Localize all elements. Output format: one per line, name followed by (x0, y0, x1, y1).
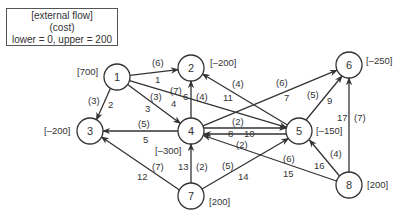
svg-text:(3): (3) (150, 91, 162, 102)
svg-text:1: 1 (155, 74, 160, 85)
svg-text:11: 11 (223, 92, 233, 103)
node-5: 5 [–150] (286, 118, 342, 144)
svg-text:2: 2 (108, 99, 113, 110)
svg-text:[200]: [200] (209, 196, 230, 207)
svg-text:(3): (3) (88, 95, 100, 106)
svg-text:16: 16 (314, 160, 325, 171)
edge-1-1-to-2: (6) 1 (130, 57, 178, 85)
svg-text:[–150]: [–150] (316, 125, 342, 136)
svg-text:(2): (2) (232, 116, 244, 127)
svg-text:6: 6 (183, 91, 188, 102)
svg-text:1: 1 (114, 71, 120, 83)
svg-text:(6): (6) (152, 57, 164, 68)
node-3: 3 [–200] (44, 118, 103, 144)
svg-text:(4): (4) (232, 78, 244, 89)
edge-13-7-to-4: 13 (2) (178, 144, 208, 183)
svg-text:14: 14 (238, 171, 249, 182)
edge-16-8-to-5: (4) 16 (310, 140, 342, 176)
node-8: 8 [200] (336, 172, 388, 198)
edge-11-5-to-2: (4) 11 (203, 74, 288, 125)
svg-text:(7): (7) (354, 112, 366, 123)
svg-text:13: 13 (178, 161, 189, 172)
node-1: 1 [700] (77, 64, 130, 90)
svg-text:7: 7 (188, 190, 194, 202)
svg-text:5: 5 (296, 125, 302, 137)
svg-text:[–200]: [–200] (210, 57, 236, 68)
node-7: 7 [200] (178, 183, 230, 209)
svg-text:(5): (5) (307, 89, 319, 100)
svg-text:(5): (5) (138, 118, 150, 129)
svg-text:4: 4 (188, 125, 194, 137)
svg-text:8: 8 (346, 179, 352, 191)
svg-text:7: 7 (284, 92, 289, 103)
node-4: 4 [–300] (155, 118, 204, 156)
svg-text:9: 9 (327, 95, 332, 106)
svg-text:(4): (4) (196, 91, 208, 102)
svg-text:[700]: [700] (77, 66, 98, 77)
svg-text:(2): (2) (196, 161, 208, 172)
svg-text:4: 4 (171, 98, 176, 109)
svg-text:2: 2 (188, 62, 194, 74)
svg-text:(7): (7) (152, 161, 164, 172)
edge-6-4-to-2: 6 (4) (183, 81, 208, 118)
svg-text:(6): (6) (283, 153, 295, 164)
svg-text:12: 12 (137, 171, 148, 182)
svg-text:6: 6 (346, 59, 352, 71)
edge-2-1-to-3: (3) 2 (88, 88, 113, 119)
node-6: 6 [–250] (336, 52, 392, 78)
svg-text:(7): (7) (170, 85, 182, 96)
svg-text:[–200]: [–200] (44, 125, 70, 136)
svg-text:[–300]: [–300] (155, 145, 181, 156)
svg-text:17: 17 (337, 112, 348, 123)
edge-5-4-to-3: (5) 5 (103, 118, 178, 145)
network-diagram: (6) 1 (3) 2 (3) 3 (7) 4 (5) 5 6 (4) (6) … (0, 0, 406, 218)
edge-15-8-to-4: (6) 15 (204, 136, 337, 182)
svg-text:5: 5 (143, 134, 148, 145)
svg-text:(6): (6) (276, 77, 288, 88)
svg-text:3: 3 (145, 103, 150, 114)
svg-text:3: 3 (87, 125, 93, 137)
svg-text:(4): (4) (330, 148, 342, 159)
svg-text:[200]: [200] (367, 179, 388, 190)
svg-text:(5): (5) (222, 160, 234, 171)
svg-text:[–250]: [–250] (366, 55, 392, 66)
svg-text:15: 15 (283, 168, 294, 179)
svg-text:10: 10 (244, 128, 255, 139)
